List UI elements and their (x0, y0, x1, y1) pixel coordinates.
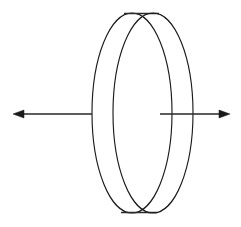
disc-diagram-svg (0, 0, 241, 227)
figure-canvas (0, 0, 241, 227)
